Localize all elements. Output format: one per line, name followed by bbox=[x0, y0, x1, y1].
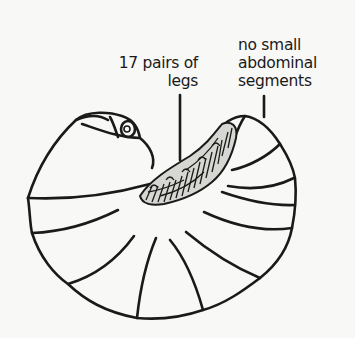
annotation-segments-line-2: abdominal bbox=[238, 54, 317, 72]
annotation-legs-line-2: legs bbox=[106, 72, 198, 90]
annotation-segments: no small abdominal segments bbox=[238, 36, 317, 90]
body-outline bbox=[28, 116, 296, 319]
annotation-segments-line-1: no small bbox=[238, 36, 317, 54]
annotation-segments-line-3: segments bbox=[238, 72, 317, 90]
annotation-legs: 17 pairs of legs bbox=[106, 54, 198, 90]
head-capsule bbox=[28, 113, 153, 199]
annotation-legs-line-1: 17 pairs of bbox=[106, 54, 198, 72]
